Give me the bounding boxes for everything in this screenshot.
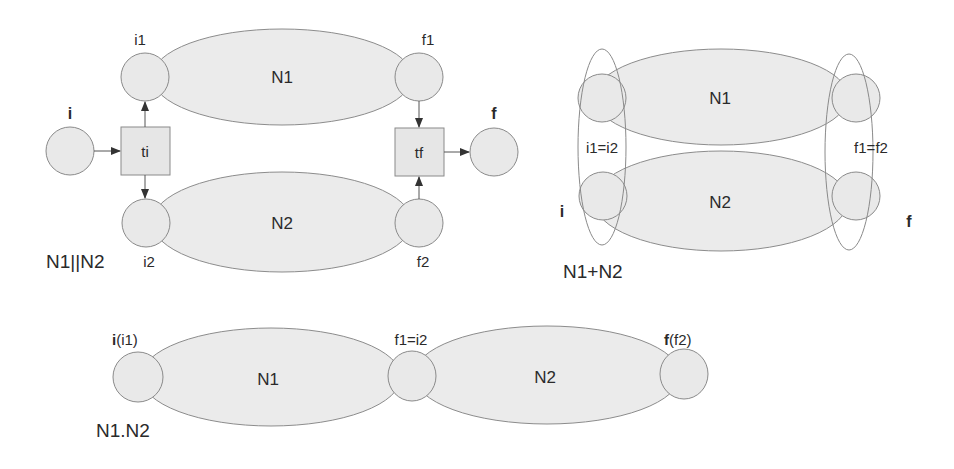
place-i — [46, 127, 94, 175]
sequence-composition: N1 N2 i(i1) f1=i2 f(f2) N1.N2 — [96, 326, 708, 441]
place-f1-label: f1 — [422, 31, 435, 48]
net-n1-label: N1 — [257, 370, 279, 389]
end-place-label: f(f2) — [664, 331, 692, 348]
place-f2 — [832, 172, 880, 220]
final-place-label: f — [906, 213, 912, 230]
place-i-label: i — [68, 105, 72, 122]
place-i1-label: i1 — [134, 31, 146, 48]
place-i2-label: i2 — [143, 253, 155, 270]
composition-diagram: N1 N2 i i1 i2 f1 f2 f ti tf N1||N2 N1 N2… — [0, 0, 954, 469]
middle-place-label: f1=i2 — [395, 331, 428, 348]
net-n2-label: N2 — [534, 368, 556, 387]
transition-tf-label: tf — [415, 144, 424, 161]
choice-caption: N1+N2 — [563, 261, 623, 282]
place-f1 — [832, 74, 880, 122]
merged-final-label: f1=f2 — [854, 139, 888, 156]
place-f2 — [395, 199, 443, 247]
merged-initial-label: i1=i2 — [586, 139, 618, 156]
place-i-i1 — [113, 352, 163, 402]
net-n2-label: N2 — [271, 214, 293, 233]
place-i2 — [122, 199, 170, 247]
net-n2-label: N2 — [709, 193, 731, 212]
place-f2-label: f2 — [417, 253, 430, 270]
parallel-caption: N1||N2 — [46, 251, 104, 272]
place-f — [470, 128, 518, 176]
start-place-label-rest: (i1) — [116, 331, 138, 348]
place-f-label: f — [491, 105, 497, 122]
choice-composition: N1 N2 i1=i2 f1=f2 i f N1+N2 — [560, 49, 913, 282]
place-f1-i2 — [388, 351, 436, 401]
place-i1 — [121, 53, 169, 101]
place-f-f2 — [660, 349, 708, 399]
end-place-label-rest: (f2) — [669, 331, 692, 348]
parallel-composition: N1 N2 i i1 i2 f1 f2 f ti tf N1||N2 — [46, 29, 518, 272]
sequence-caption: N1.N2 — [96, 420, 150, 441]
place-f1 — [395, 53, 443, 101]
net-n1-label: N1 — [271, 68, 293, 87]
transition-ti-label: ti — [141, 143, 149, 160]
place-i1 — [578, 74, 626, 122]
net-n1-label: N1 — [709, 89, 731, 108]
initial-place-label: i — [560, 203, 564, 220]
start-place-label: i(i1) — [112, 331, 138, 348]
